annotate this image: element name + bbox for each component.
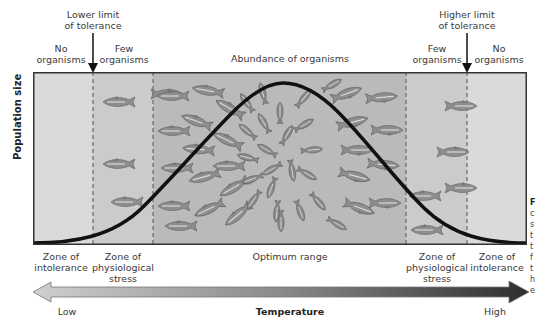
lower-limit-label: Lower limit of tolerance [58,9,128,31]
zone-label-stress-right: Zone of physiological stress [404,251,470,284]
lower-limit-arrow-icon [88,33,98,73]
zone-label-line: intolerance [30,262,92,273]
caption-char: t [530,230,535,241]
caption-char: e [530,285,535,296]
zone-intolerance-right [467,72,527,245]
right-few-organisms-line1: Few [408,43,466,54]
higher-limit-line2: of tolerance [432,20,502,31]
left-no-organisms-line1: No [32,43,90,54]
zone-label-line: Zone of [466,251,528,262]
zone-label-line: Zone of [30,251,92,262]
tolerance-plot [33,72,527,245]
x-axis-high-label: High [480,306,510,317]
left-no-organisms-line2: organisms [32,54,90,65]
lower-limit-line1: Lower limit [58,9,128,20]
left-no-organisms-label: No organisms [32,43,90,65]
caption-char: t [530,263,535,274]
zone-label-intolerance-right: Zone of intolerance [466,251,528,273]
x-axis-low-label: Low [52,306,82,317]
left-few-organisms-label: Few organisms [95,43,153,65]
right-no-organisms-line2: organisms [470,54,528,65]
caption-char: F [530,197,535,208]
zone-label-intolerance-left: Zone of intolerance [30,251,92,273]
cropped-caption-fragment: F c s t t f t h e [530,197,535,296]
zone-label-line: intolerance [466,262,528,273]
higher-limit-line1: Higher limit [432,9,502,20]
zone-label-optimum: Optimum range [220,251,360,262]
zone-label-line: Zone of [404,251,470,262]
y-axis-label: Population size [12,74,23,160]
left-few-organisms-line1: Few [95,43,153,54]
temperature-arrow-icon [33,281,530,303]
right-no-organisms-line1: No [470,43,528,54]
caption-char: c [530,208,535,219]
zone-label-line: physiological [90,262,156,273]
plot-canvas [33,72,527,245]
abundance-text: Abundance of organisms [210,53,370,64]
right-few-organisms-line2: organisms [408,54,466,65]
right-no-organisms-label: No organisms [470,43,528,65]
abundance-label: Abundance of organisms [210,53,370,64]
caption-char: f [530,252,535,263]
zone-label-stress-left: Zone of physiological stress [90,251,156,284]
caption-char: t [530,241,535,252]
right-few-organisms-label: Few organisms [408,43,466,65]
caption-char: s [530,219,535,230]
higher-limit-arrow-icon [462,33,472,73]
zone-label-line: physiological [404,262,470,273]
left-few-organisms-line2: organisms [95,54,153,65]
zone-label-line: Zone of [90,251,156,262]
zone-intolerance-left [33,72,93,245]
lower-limit-line2: of tolerance [58,20,128,31]
caption-char: h [530,274,535,285]
x-axis-label: Temperature [230,306,350,317]
zone-label-line: Optimum range [220,251,360,262]
higher-limit-label: Higher limit of tolerance [432,9,502,31]
